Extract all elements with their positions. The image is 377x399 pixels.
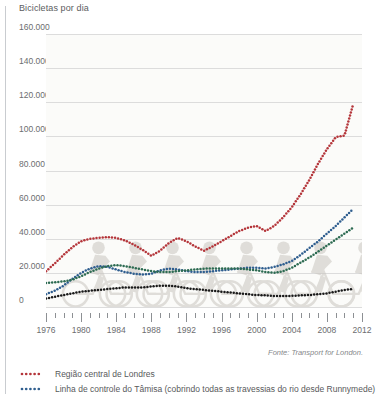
legend-color-swatch: [19, 369, 49, 378]
x-axis-minor-tick: [283, 313, 284, 318]
y-axis-tick-label: 40.000: [19, 227, 45, 237]
x-axis-tick-label: 1988: [142, 325, 161, 335]
x-axis-minor-tick: [213, 313, 214, 318]
x-axis-minor-tick: [336, 313, 337, 318]
x-axis-major-tick: [257, 313, 258, 322]
chart-legend: Região central de LondresLinha de contro…: [19, 366, 371, 396]
x-axis-tick-label: 1984: [107, 325, 126, 335]
x-axis-minor-tick: [301, 313, 302, 318]
x-axis-minor-tick: [72, 313, 73, 318]
y-axis-tick-label: 20.000: [19, 261, 45, 271]
y-axis-tick-label: 80.000: [19, 159, 45, 169]
x-axis-tick-label: 1980: [72, 325, 91, 335]
x-axis-minor-tick: [248, 313, 249, 318]
y-axis-tick-label: 0: [19, 295, 24, 305]
x-axis-minor-tick: [230, 313, 231, 318]
plot-area: [46, 34, 362, 307]
x-axis-minor-tick: [309, 313, 310, 318]
x-axis-minor-tick: [344, 313, 345, 318]
x-axis-minor-tick: [55, 313, 56, 318]
x-axis-major-tick: [46, 313, 47, 322]
x-axis-tick-label: 2012: [353, 325, 372, 335]
x-axis-minor-tick: [195, 313, 196, 318]
x-axis-minor-tick: [125, 313, 126, 318]
x-axis-major-tick: [362, 313, 363, 322]
x-axis-minor-tick: [64, 313, 65, 318]
legend-color-swatch: [19, 384, 49, 393]
x-axis-minor-tick: [99, 313, 100, 318]
x-axis-minor-tick: [160, 313, 161, 318]
chart-title: Bicicletas por dia: [19, 3, 89, 13]
x-axis-minor-tick: [274, 313, 275, 318]
series-layer: [46, 34, 362, 307]
x-axis-major-tick: [151, 313, 152, 322]
y-axis-tick-label: 160.000: [19, 22, 50, 32]
x-axis-minor-tick: [318, 313, 319, 318]
x-axis-major-tick: [327, 313, 328, 322]
x-axis-minor-tick: [178, 313, 179, 318]
x-axis-minor-tick: [265, 313, 266, 318]
x-axis-minor-tick: [134, 313, 135, 318]
x-axis-minor-tick: [90, 313, 91, 318]
x-axis-minor-tick: [169, 313, 170, 318]
x-axis-tick-label: 1976: [37, 325, 56, 335]
legend-item: Região central de Londres: [19, 366, 371, 381]
x-axis-tick-label: 2004: [282, 325, 301, 335]
x-axis-major-tick: [186, 313, 187, 322]
x-axis-major-tick: [292, 313, 293, 322]
x-axis-tick-label: 2000: [247, 325, 266, 335]
x-axis-minor-tick: [107, 313, 108, 318]
x-axis-major-tick: [81, 313, 82, 322]
y-axis-tick-label: 60.000: [19, 193, 45, 203]
series-2: [46, 227, 353, 284]
series-3: [46, 284, 352, 299]
x-axis-tick-label: 2008: [317, 325, 336, 335]
source-note: Fonte: Transport for London.: [268, 348, 363, 357]
x-axis-tick-label: 1996: [212, 325, 231, 335]
x-axis-major-tick: [116, 313, 117, 322]
x-axis-tick-label: 1992: [177, 325, 196, 335]
x-axis-minor-tick: [239, 313, 240, 318]
legend-item-label: Linha de controle do Tâmisa (cobrindo to…: [55, 384, 375, 394]
series-0: [46, 105, 354, 272]
chart-figure: Bicicletas por dia 020.00040.00060.00080…: [0, 0, 377, 399]
legend-item: Linha de controle do Tâmisa (cobrindo to…: [19, 381, 371, 396]
x-axis-major-tick: [222, 313, 223, 322]
x-axis-minor-tick: [353, 313, 354, 318]
legend-item-label: Região central de Londres: [55, 369, 155, 379]
series-1: [46, 210, 353, 296]
x-axis: 1976198019841988199219962000200420082012: [46, 307, 362, 337]
x-axis-minor-tick: [143, 313, 144, 318]
x-axis-minor-tick: [204, 313, 205, 318]
y-axis-labels: 020.00040.00060.00080.000100.000120.0001…: [0, 34, 44, 307]
